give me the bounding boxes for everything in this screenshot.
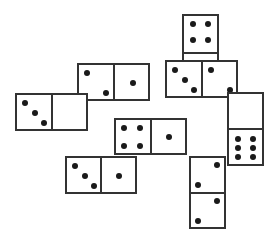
- pip: [166, 134, 172, 140]
- pip: [191, 87, 197, 93]
- pip: [91, 183, 97, 189]
- pip: [235, 154, 241, 160]
- domino-half-four: [184, 16, 217, 52]
- domino-three-blank[interactable]: [15, 93, 88, 131]
- pip: [205, 21, 211, 27]
- pip: [32, 110, 38, 116]
- pip: [22, 100, 28, 106]
- pip: [137, 125, 143, 131]
- domino-half-three: [17, 95, 51, 129]
- pip: [41, 120, 47, 126]
- pip: [235, 136, 241, 142]
- pip: [195, 182, 201, 188]
- domino-two-two[interactable]: [189, 156, 226, 229]
- pip: [72, 163, 78, 169]
- pip: [195, 218, 201, 224]
- domino-half-two: [191, 192, 224, 228]
- pip: [250, 136, 256, 142]
- pip: [121, 143, 127, 149]
- domino-half-two: [191, 158, 224, 192]
- domino-half-one: [113, 65, 149, 99]
- pip: [214, 198, 220, 204]
- domino-four-one[interactable]: [114, 118, 187, 155]
- domino-half-two: [201, 62, 237, 96]
- pip: [208, 67, 214, 73]
- pip: [116, 173, 122, 179]
- pip: [84, 70, 90, 76]
- domino-blank-six[interactable]: [227, 92, 264, 166]
- pip: [82, 173, 88, 179]
- domino-three-one[interactable]: [65, 156, 137, 194]
- pip: [137, 143, 143, 149]
- domino-half-four: [116, 120, 150, 153]
- domino-half-one: [100, 158, 135, 192]
- domino-half-three: [67, 158, 100, 192]
- pip: [214, 162, 220, 168]
- pip: [250, 154, 256, 160]
- pip: [103, 90, 109, 96]
- domino-half-blank: [51, 95, 87, 129]
- pip: [172, 67, 178, 73]
- pip: [235, 145, 241, 151]
- domino-half-six: [229, 128, 262, 164]
- domino-half-one: [150, 120, 186, 153]
- pip: [130, 80, 136, 86]
- pip: [190, 21, 196, 27]
- domino-half-three: [167, 62, 201, 96]
- pip: [250, 145, 256, 151]
- pip: [205, 37, 211, 43]
- pip: [190, 37, 196, 43]
- domino-half-blank: [229, 94, 262, 128]
- pip: [182, 77, 188, 83]
- pip: [121, 125, 127, 131]
